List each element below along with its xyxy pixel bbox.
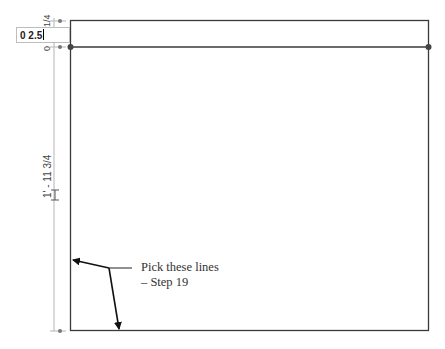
wall-rectangle[interactable] [71, 21, 429, 331]
dimension-grip-bottom[interactable] [58, 329, 62, 333]
dimension-grip-top[interactable] [58, 19, 62, 23]
dimension-label-height[interactable]: 1' - 11 3/4 [42, 155, 53, 198]
callout-line-2: – Step 19 [141, 275, 219, 290]
dimension-label-quarter: 1/4 [42, 14, 52, 27]
callout-arrow-down [109, 268, 119, 329]
endpoint-grip-right[interactable] [426, 44, 432, 50]
callout-arrow-left [73, 260, 109, 268]
callout-text: Pick these lines – Step 19 [141, 260, 219, 290]
endpoint-grip-left[interactable] [68, 44, 74, 50]
dimension-label-zero: 0 [42, 46, 52, 51]
dimension-value-text: 0 2.5 [20, 30, 42, 41]
text-caret [43, 29, 44, 40]
dimension-grip-zero[interactable] [58, 45, 62, 49]
dimension-value-input[interactable]: 0 2.5 [16, 27, 70, 43]
callout-line-1: Pick these lines [141, 260, 219, 275]
drawing-canvas[interactable] [0, 0, 445, 349]
